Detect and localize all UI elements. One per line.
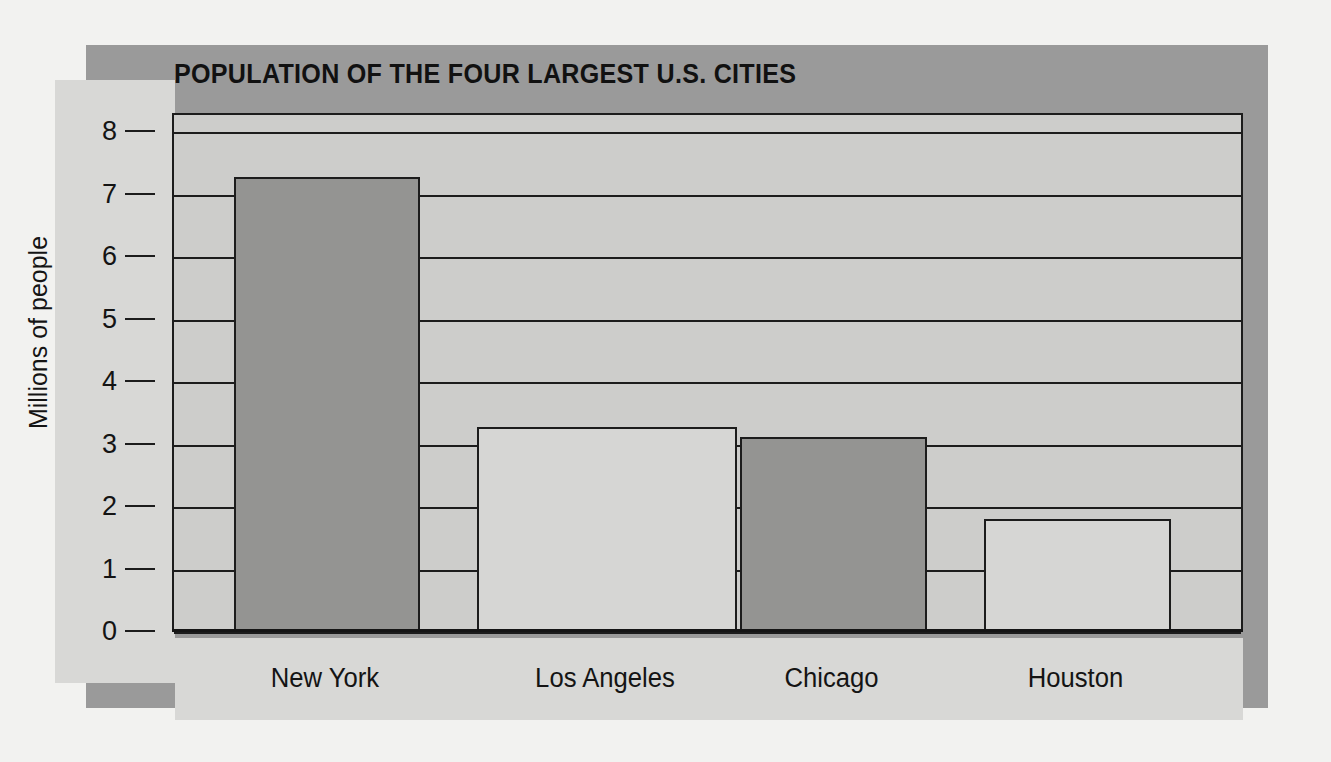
y-axis-tick-mark <box>125 318 155 320</box>
bar-chart-figure: POPULATION OF THE FOUR LARGEST U.S. CITI… <box>0 0 1331 762</box>
x-axis-category-label: Houston <box>949 650 1203 706</box>
y-axis-tick-label: 6 <box>77 240 117 272</box>
bar-chicago <box>740 437 927 631</box>
y-axis-tick-label: 5 <box>77 303 117 335</box>
bar-los-angeles <box>477 427 737 631</box>
chart-title: POPULATION OF THE FOUR LARGEST U.S. CITI… <box>174 53 1169 95</box>
y-axis-tick-label: 0 <box>77 615 117 647</box>
y-axis-tick-mark <box>125 380 155 382</box>
y-axis-tick-mark <box>125 255 155 257</box>
x-axis-category-label: New York <box>199 650 452 706</box>
plot-area <box>172 113 1243 631</box>
plot-inner <box>174 115 1241 631</box>
y-axis-tick-mark <box>125 443 155 445</box>
y-axis-tick-label: 1 <box>77 553 117 585</box>
gridline <box>174 132 1241 134</box>
y-axis-tick-mark <box>125 505 155 507</box>
y-axis-tick-mark <box>125 568 155 570</box>
y-axis-tick-label: 4 <box>77 365 117 397</box>
gridline <box>174 632 1241 634</box>
y-axis-tick-label: 3 <box>77 428 117 460</box>
x-axis-category-label: Chicago <box>705 650 959 706</box>
x-axis-baseline <box>172 629 1243 632</box>
y-axis-tick-label: 7 <box>77 178 117 210</box>
y-axis-title: Millions of people <box>24 123 53 543</box>
bar-houston <box>984 519 1171 632</box>
y-axis-tick-mark <box>125 630 155 632</box>
y-axis-tick-label: 2 <box>77 490 117 522</box>
y-axis-tick-label: 8 <box>77 115 117 147</box>
bar-new-york <box>234 177 420 631</box>
y-axis-tick-mark <box>125 130 155 132</box>
y-axis-tick-mark <box>125 193 155 195</box>
